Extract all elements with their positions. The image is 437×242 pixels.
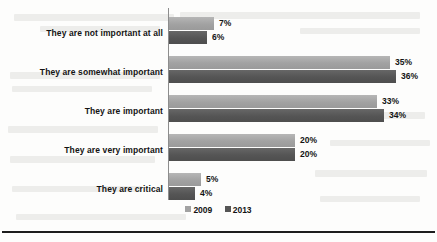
category-label: They are not important at all [46,28,163,38]
bar-value-label: 33% [382,95,399,108]
legend-item-2013[interactable]: 2013 [225,204,252,215]
footer-divider [2,231,435,233]
chart-page: They are not important at all 7% 6% They… [0,0,437,242]
chart-legend: 2009 2013 [0,204,437,215]
bar-value-label: 34% [389,109,406,122]
bar-value-label: 36% [401,70,418,83]
bar-2009 [169,134,295,147]
category-label: They are important [85,106,163,116]
bar-value-label: 20% [300,134,317,147]
bar-value-label: 7% [219,17,231,30]
bar-2013 [169,109,384,122]
bar-2009 [169,56,390,69]
bar-2009 [169,17,214,30]
bar-2009 [169,173,201,186]
category-label: They are critical [97,184,163,194]
bar-2009 [169,95,377,108]
bar-value-label: 5% [206,173,218,186]
legend-item-2009[interactable]: 2009 [185,204,212,215]
legend-label: 2009 [193,205,212,215]
bar-value-label: 4% [200,187,212,200]
bar-2013 [169,31,207,44]
legend-label: 2013 [233,205,252,215]
bar-2013 [169,70,396,83]
bar-value-label: 20% [300,148,317,161]
background-bleed [16,214,186,220]
category-label: They are somewhat important [40,67,163,77]
bar-value-label: 35% [395,56,412,69]
legend-swatch-icon [225,206,231,212]
bar-2013 [169,148,295,161]
category-label: They are very important [64,145,163,155]
bar-2013 [169,187,195,200]
bar-value-label: 6% [212,31,224,44]
legend-swatch-icon [185,206,191,212]
bar-chart: They are not important at all 7% 6% They… [0,0,437,200]
